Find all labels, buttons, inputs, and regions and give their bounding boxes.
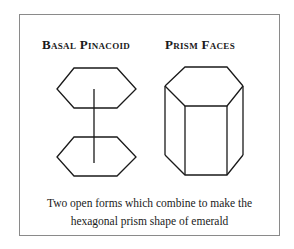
bottom-pinacoid-hexagon [57,137,136,176]
caption-line-2: hexagonal prism shape of emerald [19,212,280,230]
top-pinacoid-hexagon [57,68,136,108]
caption-line-1: Two open forms which combine to make the [19,194,280,212]
figure-caption: Two open forms which combine to make the… [19,194,280,230]
hexagonal-prism [165,67,243,175]
